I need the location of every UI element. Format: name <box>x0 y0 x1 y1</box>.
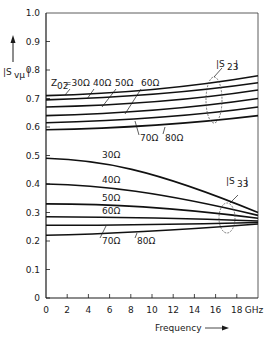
svg-text:0.3: 0.3 <box>26 208 40 218</box>
svg-text:6: 6 <box>107 305 113 315</box>
svg-text:|: | <box>235 59 238 69</box>
s33-curves <box>46 158 258 235</box>
svg-text:40Ω: 40Ω <box>102 175 120 185</box>
svg-text:0: 0 <box>43 305 49 315</box>
svg-text:|S: |S <box>216 59 225 69</box>
svg-text:0.9: 0.9 <box>26 37 41 47</box>
svg-text:50Ω: 50Ω <box>102 193 120 203</box>
svg-text:0.5: 0.5 <box>26 151 40 161</box>
svg-text:0.6: 0.6 <box>26 122 41 132</box>
svg-text:14: 14 <box>189 305 201 315</box>
svg-text:Frequency: Frequency <box>155 323 202 333</box>
svg-text:|S: |S <box>226 176 235 186</box>
svg-text:10: 10 <box>146 305 158 315</box>
svg-text:50Ω: 50Ω <box>115 78 133 88</box>
s23-60ohm-curve <box>46 99 258 116</box>
svg-text:GHz: GHz <box>245 305 264 315</box>
svg-text:4: 4 <box>86 305 92 315</box>
svg-text:0.7: 0.7 <box>26 94 40 104</box>
svg-text:1.0: 1.0 <box>26 8 41 18</box>
svg-text:18: 18 <box>231 305 243 315</box>
svg-text:|: | <box>245 176 248 186</box>
svg-text:|: | <box>27 67 30 77</box>
s33-60ohm-curve <box>46 217 258 221</box>
svg-text:0.2: 0.2 <box>26 236 40 246</box>
svg-text:8: 8 <box>128 305 134 315</box>
svg-text:60Ω: 60Ω <box>141 78 159 88</box>
x-axis-label: Frequency <box>155 323 229 333</box>
s23-group-ellipse <box>206 77 222 123</box>
svg-text:12: 12 <box>167 305 178 315</box>
right-arrow-icon <box>222 326 229 331</box>
s23-annotations: Z 02 =30Ω 40Ω 50Ω 60Ω 70Ω 80Ω |S 23 | <box>51 59 238 143</box>
svg-text:30Ω: 30Ω <box>102 150 120 160</box>
svg-text:=30Ω: =30Ω <box>64 78 90 88</box>
s33-70ohm-curve <box>46 223 258 226</box>
svg-text:vμ: vμ <box>14 70 25 80</box>
s33-50ohm-curve <box>46 204 258 218</box>
svg-text:80Ω: 80Ω <box>137 236 155 246</box>
svg-text:80Ω: 80Ω <box>165 133 183 143</box>
svg-text:70Ω: 70Ω <box>140 133 158 143</box>
y-tick-labels: 0 0.1 0.2 0.3 0.4 0.5 0.6 0.7 0.8 0.9 1.… <box>26 8 41 303</box>
svg-text:16: 16 <box>210 305 222 315</box>
svg-text:2: 2 <box>64 305 70 315</box>
svg-text:|S: |S <box>3 67 12 77</box>
svg-text:0.4: 0.4 <box>26 179 41 189</box>
x-tick-labels: 0 2 4 6 8 10 12 14 16 18 GHz <box>43 305 263 315</box>
svg-text:70Ω: 70Ω <box>102 236 120 246</box>
svg-text:0.1: 0.1 <box>26 265 40 275</box>
svg-text:40Ω: 40Ω <box>93 78 111 88</box>
svg-text:0: 0 <box>34 293 40 303</box>
up-arrow-icon <box>11 35 16 43</box>
plot-frame <box>46 13 258 298</box>
svg-text:60Ω: 60Ω <box>102 206 120 216</box>
s-parameter-chart: 0 0.1 0.2 0.3 0.4 0.5 0.6 0.7 0.8 0.9 1.… <box>0 0 268 338</box>
